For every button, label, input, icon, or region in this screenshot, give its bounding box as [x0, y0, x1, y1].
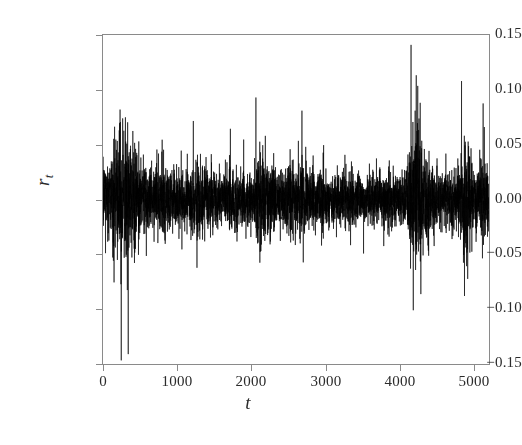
- y-tick-mark: [96, 145, 102, 146]
- y-tick-mark: [96, 309, 102, 310]
- y-axis-title-subscript: t: [40, 175, 55, 179]
- x-axis-title-text: t: [245, 392, 250, 414]
- y-tick-label: −0.15: [434, 354, 522, 371]
- y-tick-label: 0.05: [434, 135, 522, 152]
- x-axis-title: t: [0, 392, 522, 414]
- y-tick-label: 0.00: [434, 190, 522, 207]
- y-tick-label: 0.10: [434, 80, 522, 97]
- x-tick-mark: [326, 365, 327, 371]
- returns-series-line: [103, 35, 489, 364]
- y-tick-mark: [96, 200, 102, 201]
- x-tick-mark: [177, 365, 178, 371]
- y-tick-mark: [96, 254, 102, 255]
- plot-area: [102, 34, 490, 365]
- x-tick-mark: [251, 365, 252, 371]
- y-tick-mark: [96, 364, 102, 365]
- y-tick-mark: [96, 90, 102, 91]
- returns-time-series-figure: 0.150.100.050.00−0.05−0.10−0.15 01000200…: [0, 0, 522, 445]
- y-tick-mark: [96, 35, 102, 36]
- x-tick-mark: [103, 365, 104, 371]
- x-tick-label: 5000: [429, 373, 519, 390]
- y-tick-label: −0.10: [434, 299, 522, 316]
- y-tick-label: 0.15: [434, 25, 522, 42]
- y-axis-title-base: r: [32, 179, 53, 186]
- y-tick-label: −0.05: [434, 244, 522, 261]
- y-axis-title: rt: [32, 150, 57, 210]
- x-tick-mark: [400, 365, 401, 371]
- x-tick-mark: [474, 365, 475, 371]
